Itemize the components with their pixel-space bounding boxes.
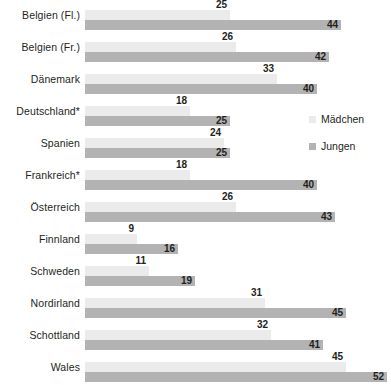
value-label-maedchen: 18 — [85, 95, 187, 106]
value-label-jungen: 19 — [85, 276, 192, 287]
value-label-jungen: 25 — [85, 116, 227, 127]
value-label-maedchen: 26 — [85, 31, 233, 42]
category-label: Spanien — [0, 137, 80, 150]
category-label: Nordirland — [0, 297, 80, 310]
category-label: Belgien (Fr.) — [0, 41, 80, 54]
value-label-maedchen: 25 — [85, 0, 227, 10]
horizontal-bar-chart: Belgien (Fl.)2544Belgien (Fr.)2642Dänema… — [0, 0, 391, 385]
bar-maedchen — [85, 330, 271, 340]
bars-area: 2643 — [85, 192, 391, 224]
chart-row: Wales4552 — [0, 352, 391, 384]
category-label: Belgien (Fl.) — [0, 9, 80, 22]
chart-legend: Mädchen Jungen — [309, 112, 391, 166]
chart-row: Finnland916 — [0, 224, 391, 256]
bars-area: 4552 — [85, 352, 391, 384]
bar-maedchen — [85, 42, 236, 52]
bar-maedchen — [85, 266, 149, 276]
value-label-maedchen: 26 — [85, 191, 233, 202]
chart-row: Belgien (Fl.)2544 — [0, 0, 391, 32]
legend-label-maedchen: Mädchen — [321, 112, 364, 126]
value-label-maedchen: 24 — [85, 127, 221, 138]
bars-area: 3241 — [85, 320, 391, 352]
chart-row: Österreich2643 — [0, 192, 391, 224]
value-label-jungen: 42 — [85, 52, 326, 63]
bars-area: 2544 — [85, 0, 391, 32]
bar-maedchen — [85, 202, 236, 212]
value-label-jungen: 41 — [85, 340, 320, 351]
category-label: Schweden — [0, 265, 80, 278]
value-label-jungen: 16 — [85, 244, 175, 255]
bar-maedchen — [85, 362, 346, 372]
value-label-maedchen: 31 — [85, 287, 262, 298]
value-label-jungen: 52 — [85, 372, 384, 383]
value-label-jungen: 43 — [85, 212, 332, 223]
bar-maedchen — [85, 10, 230, 20]
bars-area: 1119 — [85, 256, 391, 288]
category-label: Deutschland* — [0, 105, 80, 118]
value-label-jungen: 40 — [85, 84, 314, 95]
value-label-maedchen: 33 — [85, 63, 274, 74]
value-label-jungen: 40 — [85, 180, 314, 191]
category-label: Frankreich* — [0, 169, 80, 182]
chart-row: Dänemark3340 — [0, 64, 391, 96]
category-label: Österreich — [0, 201, 80, 214]
category-label: Wales — [0, 361, 80, 374]
bars-area: 3145 — [85, 288, 391, 320]
bar-maedchen — [85, 234, 137, 244]
value-label-jungen: 45 — [85, 308, 343, 319]
chart-row: Nordirland3145 — [0, 288, 391, 320]
value-label-jungen: 25 — [85, 148, 227, 159]
category-label: Schottland — [0, 329, 80, 342]
bar-maedchen — [85, 106, 190, 116]
category-label: Finnland — [0, 233, 80, 246]
chart-row: Schweden1119 — [0, 256, 391, 288]
bar-maedchen — [85, 138, 224, 148]
chart-row: Schottland3241 — [0, 320, 391, 352]
value-label-maedchen: 9 — [85, 223, 134, 234]
legend-label-jungen: Jungen — [321, 139, 355, 153]
legend-swatch-maedchen — [309, 116, 316, 123]
bar-maedchen — [85, 298, 265, 308]
legend-item-maedchen: Mädchen — [309, 112, 391, 139]
bars-area: 916 — [85, 224, 391, 256]
bars-area: 3340 — [85, 64, 391, 96]
bar-maedchen — [85, 170, 190, 180]
value-label-maedchen: 32 — [85, 319, 268, 330]
bar-maedchen — [85, 74, 277, 84]
chart-row: Belgien (Fr.)2642 — [0, 32, 391, 64]
legend-swatch-jungen — [309, 143, 316, 150]
value-label-maedchen: 45 — [85, 351, 343, 362]
value-label-maedchen: 18 — [85, 159, 187, 170]
bars-area: 2642 — [85, 32, 391, 64]
value-label-jungen: 44 — [85, 20, 338, 31]
legend-item-jungen: Jungen — [309, 139, 391, 166]
category-label: Dänemark — [0, 73, 80, 86]
value-label-maedchen: 11 — [85, 255, 146, 266]
